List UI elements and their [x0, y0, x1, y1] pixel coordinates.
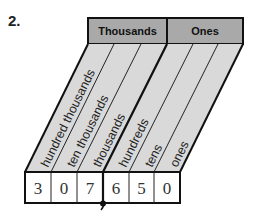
group-headers: Thousands Ones — [88, 18, 243, 44]
digit-tens: 5 — [137, 179, 146, 198]
slanted-columns: hundred thousands ten thousands thousand… — [25, 44, 243, 172]
digit-hundreds: 6 — [112, 179, 121, 198]
digit-hundred-thousands: 3 — [34, 179, 43, 198]
digit-ten-thousands: 0 — [60, 179, 69, 198]
place-value-chart: Thousands Ones hundred thousands ten tho… — [0, 0, 257, 219]
digit-ones: 0 — [163, 179, 172, 198]
digit-boxes: 3 0 7 6 5 0 — [25, 172, 180, 210]
ones-header-label: Ones — [191, 25, 219, 37]
digit-thousands: 7 — [86, 179, 95, 198]
thousands-header-label: Thousands — [98, 25, 157, 37]
